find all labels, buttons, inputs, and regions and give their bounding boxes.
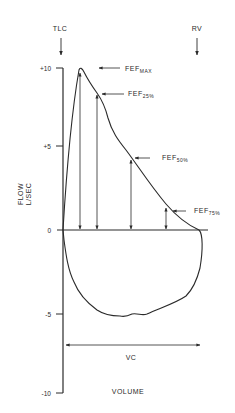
y-tick-label-0: 0 [47,227,51,234]
fef-75-label: FEF75% [194,207,220,216]
vc-label: VC [126,354,137,361]
tlc-label: TLC [53,25,68,32]
inspiratory-curve [63,230,202,316]
flow-volume-loop-diagram: TLC RV +10 +5 0 -5 -10 FLOW L/SEC FEFMAX… [0,0,235,413]
y-axis-label-units: L/SEC [25,183,32,206]
y-tick-label-minus10: -10 [42,390,52,397]
y-tick-label-plus5: +5 [44,143,52,150]
y-tick-label-plus10: +10 [40,65,51,72]
y-axis-label-flow: FLOW [17,183,24,205]
rv-label: RV [192,25,203,32]
fef-max-label: FEFMAX [125,65,152,74]
y-tick-label-minus5: -5 [45,311,51,318]
fef-25-label: FEF25% [128,90,154,99]
x-axis-label: VOLUME [112,388,145,395]
fef-50-label: FEF50% [162,154,188,163]
